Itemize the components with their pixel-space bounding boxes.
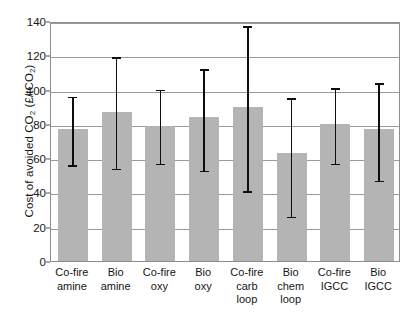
y-tick-label: 80 (6, 119, 46, 131)
y-tick-label: 120 (6, 50, 46, 62)
x-tick-label-line: amine (94, 280, 138, 294)
error-bar (329, 88, 341, 165)
x-tick-label-line: oxy (138, 280, 182, 294)
error-bar-stem (116, 57, 118, 170)
y-tick-label: 60 (6, 153, 46, 165)
x-tick-label-line: Co-fire (225, 266, 269, 280)
error-bar-cap-bottom (200, 171, 209, 173)
error-bar-stem (378, 83, 380, 182)
x-tick-label-line: Co-fire (313, 266, 357, 280)
y-tick-mark (46, 56, 50, 57)
x-tick-label-line: oxy (181, 280, 225, 294)
y-tick-mark (46, 262, 50, 263)
error-bar (373, 83, 385, 182)
x-tick-label-line: chem (269, 280, 313, 294)
y-tick-label: 40 (6, 187, 46, 199)
error-bar-stem (203, 69, 205, 172)
error-bar-stem (291, 98, 293, 218)
gridline (51, 57, 399, 58)
x-tick-label: Co-fireoxy (138, 266, 182, 293)
error-bar-stem (72, 97, 74, 167)
bar-chart: Cost of avoided CO2 (£/tCO2) 14012010080… (0, 0, 415, 320)
error-bar-cap-bottom (156, 164, 165, 166)
y-tick-mark (46, 124, 50, 125)
x-tick-label: Co-firecarbloop (225, 266, 269, 307)
x-tick-label: Co-fireIGCC (313, 266, 357, 293)
x-tick-label-line: IGCC (356, 280, 400, 294)
x-tick-label: Biochemloop (269, 266, 313, 307)
y-tick-mark (46, 159, 50, 160)
x-tick-label-line: Bio (94, 266, 138, 280)
x-tick-label: Biooxy (181, 266, 225, 293)
x-tick-label: BioIGCC (356, 266, 400, 293)
x-tick-label-line: Bio (269, 266, 313, 280)
x-tick-label-line: Co-fire (138, 266, 182, 280)
x-tick-label-line: loop (269, 293, 313, 307)
x-tick-label: Co-fireamine (50, 266, 94, 293)
error-bar-cap-bottom (68, 165, 77, 167)
y-axis-title-sub-2: 2 (28, 68, 37, 73)
error-bar (198, 69, 210, 172)
error-bar (154, 90, 166, 165)
error-bar (67, 97, 79, 167)
y-tick-label: 100 (6, 85, 46, 97)
error-bar-cap-bottom (112, 169, 121, 171)
y-tick-label: 20 (6, 222, 46, 234)
error-bar (111, 57, 123, 170)
x-tick-label-line: IGCC (313, 280, 357, 294)
y-tick-label: 0 (6, 256, 46, 268)
x-tick-label-line: carb (225, 280, 269, 294)
x-tick-label-line: Co-fire (50, 266, 94, 280)
x-tick-label-line: Bio (181, 266, 225, 280)
error-bar-stem (335, 88, 337, 165)
y-tick-mark (46, 193, 50, 194)
error-bar-cap-bottom (331, 164, 340, 166)
y-tick-mark (46, 22, 50, 23)
error-bar-stem (247, 26, 249, 192)
y-tick-mark (46, 90, 50, 91)
x-tick-label-line: amine (50, 280, 94, 294)
x-tick-label-line: loop (225, 293, 269, 307)
error-bar (286, 98, 298, 218)
y-tick-mark (46, 227, 50, 228)
y-axis-title-sub-1: 2 (28, 111, 37, 116)
error-bar-cap-bottom (375, 181, 384, 183)
gridline (51, 23, 399, 24)
y-tick-label: 140 (6, 16, 46, 28)
gridline (51, 92, 399, 93)
x-tick-label: Bioamine (94, 266, 138, 293)
error-bar (242, 26, 254, 192)
x-tick-label-line: Bio (356, 266, 400, 280)
error-bar-stem (160, 90, 162, 165)
plot-area (50, 22, 400, 262)
error-bar-cap-bottom (287, 217, 296, 219)
error-bar-cap-bottom (243, 191, 252, 193)
